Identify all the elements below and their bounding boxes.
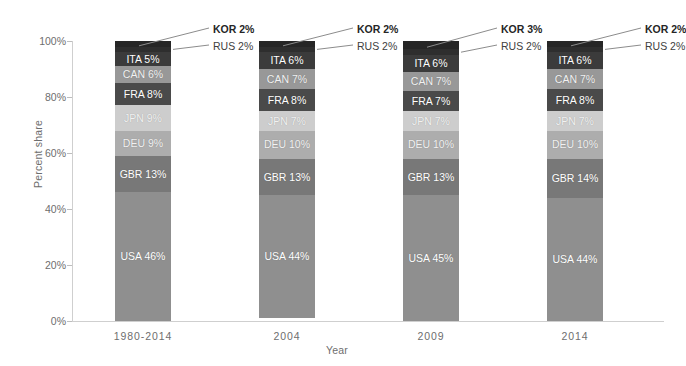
segment-label-can: CAN 6% xyxy=(123,69,163,80)
callout-label-kor: KOR 2% xyxy=(645,24,686,35)
segment-label-deu: DEU 10% xyxy=(552,139,598,150)
category-label-2014: 2014 xyxy=(562,330,589,342)
segment-label-ita: ITA 6% xyxy=(270,55,303,66)
bar-segment-ita[interactable]: ITA 6% xyxy=(547,52,603,69)
segment-label-fra: FRA 7% xyxy=(412,96,451,107)
segment-label-gbr: GBR 13% xyxy=(120,169,167,180)
segment-label-fra: FRA 8% xyxy=(556,95,595,106)
bar-segment-deu[interactable]: DEU 9% xyxy=(115,131,171,156)
leader-line-rus xyxy=(173,45,209,49)
callout-label-rus: RUS 2% xyxy=(213,41,253,52)
bar-segment-gbr[interactable]: GBR 13% xyxy=(403,159,459,195)
y-tick-label: 100% xyxy=(20,35,66,47)
bar-segment-deu[interactable]: DEU 10% xyxy=(403,131,459,159)
bar-segment-usa[interactable]: USA 44% xyxy=(547,198,603,321)
category-label-2009: 2009 xyxy=(418,330,445,342)
bar-segment-ita[interactable]: ITA 6% xyxy=(403,55,459,72)
y-tick-label: 0% xyxy=(20,315,66,327)
y-tick-label: 40% xyxy=(20,203,66,215)
callout-label-kor: KOR 2% xyxy=(357,24,398,35)
y-tick-label: 20% xyxy=(20,259,66,271)
bar-segment-fra[interactable]: FRA 7% xyxy=(403,91,459,111)
y-tick-label: 60% xyxy=(20,147,66,159)
segment-label-gbr: GBR 13% xyxy=(264,172,311,183)
bar-segment-ita[interactable]: ITA 5% xyxy=(115,52,171,66)
bar-segment-gbr[interactable]: GBR 14% xyxy=(547,159,603,198)
segment-label-deu: DEU 10% xyxy=(408,139,454,150)
segment-label-jpn: JPN 9% xyxy=(124,113,162,124)
bar-segment-deu[interactable]: DEU 10% xyxy=(547,131,603,159)
y-tick-label: 80% xyxy=(20,91,66,103)
callout-label-kor: KOR 3% xyxy=(501,24,542,35)
bar-segment-jpn[interactable]: JPN 7% xyxy=(259,111,315,131)
y-axis-line xyxy=(72,41,73,321)
callout-label-kor: KOR 2% xyxy=(213,24,254,35)
leader-line-rus xyxy=(317,45,353,49)
bar-2009[interactable]: ITA 6%CAN 7%FRA 7%JPN 7%DEU 10%GBR 13%US… xyxy=(403,41,459,321)
segment-label-usa: USA 45% xyxy=(409,253,454,264)
segment-label-usa: USA 44% xyxy=(265,251,310,262)
leader-line-rus xyxy=(461,45,497,52)
bar-segment-can[interactable]: CAN 7% xyxy=(259,69,315,89)
bar-segment-ita[interactable]: ITA 6% xyxy=(259,52,315,69)
bar-segment-usa[interactable]: USA 44% xyxy=(259,195,315,318)
bar-segment-gbr[interactable]: GBR 13% xyxy=(259,159,315,195)
bar-segment-can[interactable]: CAN 6% xyxy=(115,66,171,83)
segment-label-jpn: JPN 7% xyxy=(556,116,594,127)
callout-label-rus: RUS 2% xyxy=(357,41,397,52)
bar-segment-gbr[interactable]: GBR 13% xyxy=(115,156,171,192)
bar-segment-usa[interactable]: USA 45% xyxy=(403,195,459,321)
segment-label-deu: DEU 10% xyxy=(264,139,310,150)
bar-segment-can[interactable]: CAN 7% xyxy=(547,69,603,89)
callout-label-rus: RUS 2% xyxy=(501,41,541,52)
bar-1980-2014[interactable]: ITA 5%CAN 6%FRA 8%JPN 9%DEU 9%GBR 13%USA… xyxy=(115,41,171,321)
segment-label-can: CAN 7% xyxy=(411,76,451,87)
segment-label-gbr: GBR 14% xyxy=(552,173,599,184)
bar-segment-jpn[interactable]: JPN 7% xyxy=(403,111,459,131)
segment-label-fra: FRA 8% xyxy=(268,95,307,106)
segment-label-jpn: JPN 7% xyxy=(268,116,306,127)
bar-2014[interactable]: ITA 6%CAN 7%FRA 8%JPN 7%DEU 10%GBR 14%US… xyxy=(547,41,603,321)
x-axis-line xyxy=(72,321,664,322)
category-label-2004: 2004 xyxy=(274,330,301,342)
bar-segment-usa[interactable]: USA 46% xyxy=(115,192,171,321)
bar-segment-fra[interactable]: FRA 8% xyxy=(115,83,171,105)
segment-label-ita: ITA 6% xyxy=(558,55,591,66)
leader-line-rus xyxy=(605,45,641,49)
bar-segment-fra[interactable]: FRA 8% xyxy=(259,89,315,111)
segment-label-jpn: JPN 7% xyxy=(412,116,450,127)
bar-segment-fra[interactable]: FRA 8% xyxy=(547,89,603,111)
segment-label-gbr: GBR 13% xyxy=(408,172,455,183)
segment-label-ita: ITA 5% xyxy=(126,54,159,65)
bar-segment-jpn[interactable]: JPN 9% xyxy=(115,105,171,130)
segment-label-fra: FRA 8% xyxy=(124,89,163,100)
segment-label-can: CAN 7% xyxy=(555,74,595,85)
segment-label-usa: USA 46% xyxy=(121,251,166,262)
segment-label-ita: ITA 6% xyxy=(414,58,447,69)
bar-2004[interactable]: ITA 6%CAN 7%FRA 8%JPN 7%DEU 10%GBR 13%US… xyxy=(259,41,315,321)
segment-label-deu: DEU 9% xyxy=(123,138,163,149)
bar-segment-kor[interactable] xyxy=(403,41,459,49)
bar-segment-jpn[interactable]: JPN 7% xyxy=(547,111,603,131)
callout-label-rus: RUS 2% xyxy=(645,41,685,52)
bar-segment-can[interactable]: CAN 7% xyxy=(403,72,459,92)
x-axis-title: Year xyxy=(0,344,674,356)
segment-label-can: CAN 7% xyxy=(267,74,307,85)
category-label-1980-2014: 1980-2014 xyxy=(114,330,172,342)
bar-segment-deu[interactable]: DEU 10% xyxy=(259,131,315,159)
segment-label-usa: USA 44% xyxy=(553,254,598,265)
